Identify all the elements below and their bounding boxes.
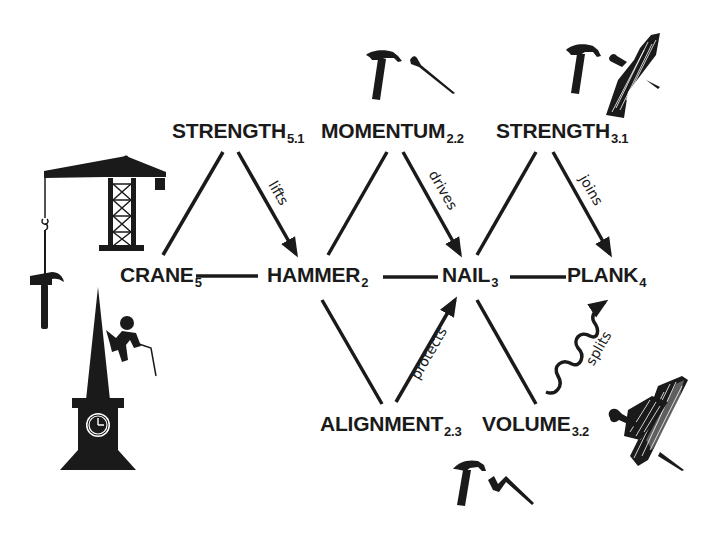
node-volume-label: VOLUME	[482, 412, 571, 435]
node-strength-5-1: STRENGTH5.1	[172, 120, 304, 141]
node-nail: NAIL3	[442, 264, 498, 285]
edge-arrow-lifts	[238, 152, 296, 254]
split-plank-with-nail-icon	[609, 376, 688, 471]
node-crane: CRANE5	[120, 264, 202, 285]
hanging-hammer-icon	[30, 272, 64, 329]
edge-hammer-alignment	[322, 300, 382, 404]
node-volume-index: 3.2	[572, 424, 589, 439]
node-volume: VOLUME3.2	[482, 413, 589, 434]
edge-crane-strength51	[163, 152, 223, 255]
node-alignment-index: 2.3	[444, 424, 461, 439]
node-strength-5-1-label: STRENGTH	[172, 119, 286, 142]
node-nail-index: 3	[491, 275, 498, 290]
node-strength-3-1-index: 3.1	[611, 131, 628, 146]
node-strength-5-1-index: 5.1	[287, 131, 304, 146]
node-strength-3-1-label: STRENGTH	[496, 119, 610, 142]
edge-nail-volume	[477, 300, 536, 404]
hammer-and-bent-nail-icon	[453, 460, 534, 506]
node-nail-label: NAIL	[442, 263, 490, 286]
hammer-and-nail-icon	[366, 50, 455, 100]
tower-crane-icon	[42, 156, 166, 280]
node-hammer-index: 2	[361, 275, 368, 290]
node-crane-label: CRANE	[120, 263, 194, 286]
clock-tower-climber-icon	[60, 287, 156, 470]
node-momentum-label: MOMENTUM	[321, 119, 445, 142]
node-plank: PLANK4	[567, 264, 646, 285]
node-momentum-index: 2.2	[446, 131, 463, 146]
node-hammer: HAMMER2	[267, 264, 368, 285]
node-plank-index: 4	[639, 275, 646, 290]
node-plank-label: PLANK	[567, 263, 638, 286]
node-strength-3-1: STRENGTH3.1	[496, 120, 628, 141]
node-momentum: MOMENTUM2.2	[321, 120, 464, 141]
edge-hammer-momentum	[328, 152, 387, 255]
hammer-nail-plank-icon	[566, 33, 660, 118]
node-alignment: ALIGNMENT2.3	[320, 413, 462, 434]
diagram-canvas: CRANE5 STRENGTH5.1 HAMMER2 MOMENTUM2.2 A…	[0, 0, 712, 540]
edge-nail-strength31	[477, 152, 536, 255]
node-hammer-label: HAMMER	[267, 263, 360, 286]
node-crane-index: 5	[195, 275, 202, 290]
node-alignment-label: ALIGNMENT	[320, 412, 443, 435]
